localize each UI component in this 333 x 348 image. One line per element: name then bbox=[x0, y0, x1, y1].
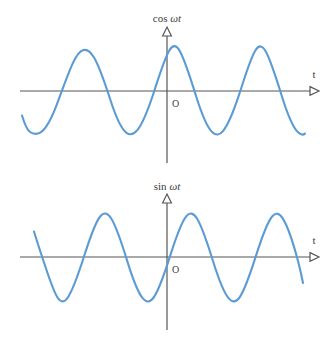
sine-y-axis-arrow-icon bbox=[163, 194, 172, 203]
cosine-y-axis bbox=[163, 27, 172, 163]
waveform-svg: cos ωt t O sin ωt t O bbox=[0, 0, 333, 348]
cosine-origin-label: O bbox=[172, 98, 179, 109]
cosine-panel: cos ωt t O bbox=[20, 12, 319, 163]
sine-label-prefix: sin bbox=[154, 180, 170, 192]
sine-origin-label: O bbox=[172, 264, 179, 275]
cosine-x-axis-arrow-icon bbox=[310, 87, 319, 96]
sine-label-t: t bbox=[177, 180, 181, 192]
sine-t-axis-label: t bbox=[312, 234, 315, 246]
cosine-x-axis bbox=[20, 87, 319, 96]
sine-y-axis bbox=[163, 194, 172, 330]
waveform-figure: cos ωt t O sin ωt t O bbox=[0, 0, 333, 348]
cosine-y-axis-arrow-icon bbox=[163, 27, 172, 36]
cosine-t-axis-label: t bbox=[312, 68, 315, 80]
sine-x-axis-arrow-icon bbox=[310, 253, 319, 262]
cosine-label-prefix: cos bbox=[153, 12, 170, 24]
cosine-label-t: t bbox=[178, 12, 182, 24]
cosine-axis-label: cos ωt bbox=[153, 12, 182, 24]
cosine-curve bbox=[22, 46, 305, 134]
sine-axis-label: sin ωt bbox=[154, 180, 181, 192]
sine-panel: sin ωt t O bbox=[20, 180, 319, 330]
